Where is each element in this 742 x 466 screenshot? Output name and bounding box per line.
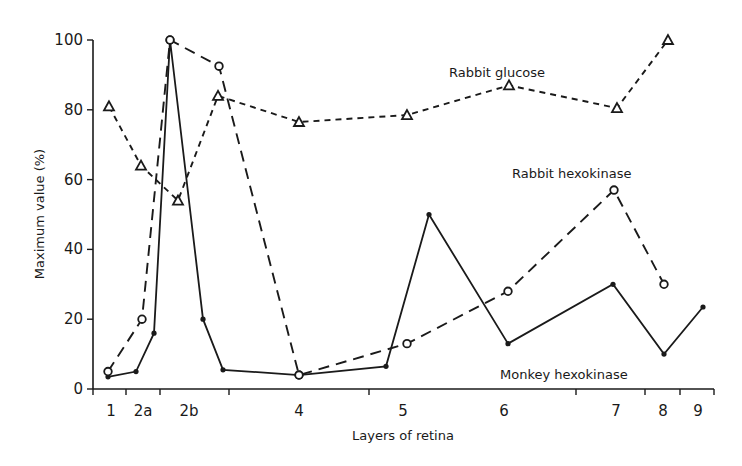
y-tick-label: 100 — [54, 31, 83, 49]
y-tick-label: 80 — [64, 101, 83, 119]
filled-circle-marker — [426, 212, 431, 217]
x-tick-label: 1 — [106, 402, 116, 420]
x-tick-label: 2a — [134, 402, 153, 420]
open-triangle-marker — [213, 91, 223, 100]
rabbit-hexokinase-label: Rabbit hexokinase — [512, 166, 631, 181]
open-circle-marker — [660, 281, 668, 289]
open-circle-marker — [403, 340, 411, 348]
monkey-hexokinase-label: Monkey hexokinase — [500, 367, 628, 382]
open-triangle-marker — [663, 35, 673, 44]
open-triangle-marker — [104, 101, 114, 110]
filled-circle-marker — [151, 331, 156, 336]
x-tick-label: 2b — [179, 402, 198, 420]
open-circle-marker — [610, 186, 618, 194]
filled-circle-marker — [505, 341, 510, 346]
x-tick-label: 9 — [693, 402, 703, 420]
open-triangle-marker — [136, 161, 146, 170]
rabbit-glucose-label: Rabbit glucose — [449, 65, 545, 80]
x-tick-label: 7 — [611, 402, 621, 420]
y-tick-label: 60 — [64, 171, 83, 189]
open-triangle-marker — [612, 103, 622, 112]
open-circle-marker — [104, 368, 112, 376]
x-tick-label: 5 — [398, 402, 408, 420]
x-tick-label: 6 — [499, 402, 509, 420]
open-circle-marker — [504, 287, 512, 295]
x-tick-label: 8 — [658, 402, 668, 420]
labels-layer: Layers of retina Maximum value (%) Rabbi… — [32, 65, 631, 443]
filled-circle-marker — [700, 304, 705, 309]
axes: 02040608010012a2b456789 — [54, 31, 714, 420]
y-tick-label: 20 — [64, 310, 83, 328]
open-triangle-marker — [402, 110, 412, 119]
filled-circle-marker — [133, 369, 138, 374]
x-tick-label: 4 — [294, 402, 304, 420]
line-chart: 02040608010012a2b456789 Layers of retina… — [0, 0, 742, 466]
series-layer — [104, 35, 706, 380]
filled-circle-marker — [383, 364, 388, 369]
open-circle-marker — [215, 62, 223, 70]
filled-circle-marker — [220, 367, 225, 372]
series-rabbit-hexokinase — [104, 36, 668, 379]
series-line — [108, 40, 703, 377]
y-tick-label: 40 — [64, 240, 83, 258]
x-axis-title: Layers of retina — [352, 428, 454, 443]
open-circle-marker — [166, 36, 174, 44]
filled-circle-marker — [200, 317, 205, 322]
series-monkey-hexokinase — [105, 36, 705, 380]
y-axis-title: Maximum value (%) — [32, 149, 47, 279]
open-circle-marker — [138, 315, 146, 323]
open-triangle-marker — [294, 117, 304, 126]
series-line — [108, 40, 664, 375]
y-tick-label: 0 — [73, 380, 83, 398]
filled-circle-marker — [661, 352, 666, 357]
open-circle-marker — [295, 371, 303, 379]
open-triangle-marker — [504, 80, 514, 89]
filled-circle-marker — [610, 282, 615, 287]
